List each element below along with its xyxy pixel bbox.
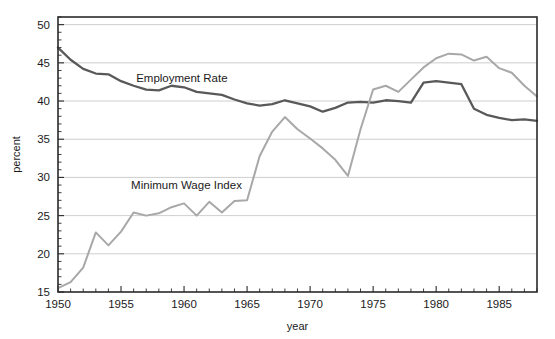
y-tick-label: 30 — [37, 171, 50, 183]
chart-background — [0, 0, 555, 339]
x-tick-label: 1970 — [297, 298, 323, 310]
series-label-minimum-wage-index: Minimum Wage Index — [131, 179, 242, 191]
x-tick-label: 1960 — [171, 298, 197, 310]
x-tick-label: 1985 — [486, 298, 512, 310]
x-tick-label: 1980 — [423, 298, 449, 310]
x-tick-label: 1950 — [45, 298, 71, 310]
x-tick-label: 1975 — [360, 298, 386, 310]
series-label-employment-rate: Employment Rate — [136, 72, 227, 84]
y-tick-label: 35 — [37, 133, 50, 145]
x-tick-label: 1965 — [234, 298, 260, 310]
y-tick-label: 25 — [37, 210, 50, 222]
y-tick-label: 15 — [37, 286, 50, 298]
y-tick-label: 20 — [37, 248, 50, 260]
y-tick-label: 45 — [37, 57, 50, 69]
y-tick-label: 50 — [37, 19, 50, 31]
x-tick-label: 1955 — [108, 298, 134, 310]
y-axis-label: percent — [10, 136, 22, 173]
y-tick-label: 40 — [37, 95, 50, 107]
line-chart: 19501955196019651970197519801985 1520253… — [0, 0, 555, 339]
x-axis-label: year — [287, 320, 309, 332]
